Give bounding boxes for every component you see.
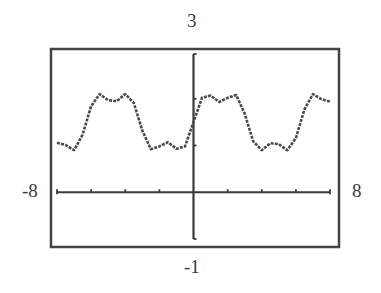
graph-canvas bbox=[0, 0, 381, 293]
viewing-window-frame bbox=[51, 49, 339, 247]
ymin-label: -1 bbox=[184, 257, 200, 276]
ymax-label: 3 bbox=[187, 11, 197, 30]
xmin-label: -8 bbox=[22, 181, 38, 200]
xmax-label: 8 bbox=[352, 181, 362, 200]
